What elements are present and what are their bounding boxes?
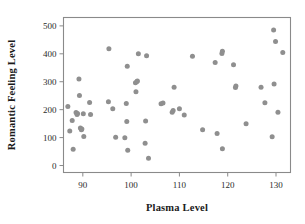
data-point [125,148,130,153]
plot-canvas: 0100200300400500 90100110120130 Plasma L… [0,0,305,224]
data-point [190,54,195,59]
y-tick-label: 300 [43,77,57,87]
data-point [81,111,86,116]
data-point [71,147,76,152]
data-point [124,101,129,106]
data-point [220,146,225,151]
y-axis-title: Romantic Feeling Level [6,40,17,151]
x-tick-label: 100 [124,180,138,190]
data-point [106,99,111,104]
data-point [177,106,182,111]
data-point [182,112,187,117]
data-point [81,134,86,139]
data-point [270,134,275,139]
data-point [231,62,236,67]
data-point [70,118,75,123]
data-point [144,53,149,58]
data-point [143,119,148,124]
data-point [146,156,151,161]
data-point [213,60,218,65]
data-point [122,135,127,140]
data-point [272,81,277,86]
data-point [143,141,148,146]
data-point [75,111,80,116]
data-point [67,128,72,133]
data-point [271,28,276,33]
data-point [125,64,130,69]
data-point [259,85,264,90]
data-point [262,100,267,105]
data-point [172,85,177,90]
data-point [220,49,225,54]
y-tick-label: 100 [43,133,57,143]
data-point [88,112,93,117]
y-tick-label: 0 [52,161,57,171]
y-tick-label: 200 [43,105,57,115]
data-point [135,78,140,83]
data-point [244,121,249,126]
x-tick-label: 130 [269,180,283,190]
y-tick-label: 500 [43,21,57,31]
data-point [273,39,278,44]
data-point [136,51,141,56]
data-point [76,76,81,81]
data-point [65,104,70,109]
x-tick-label: 120 [221,180,235,190]
data-point [113,135,118,140]
data-point [79,126,84,131]
x-tick-label: 90 [78,180,88,190]
data-point [87,100,92,105]
data-point [171,108,176,113]
data-point [200,127,205,132]
data-point [215,131,220,136]
data-point [106,46,111,51]
data-point [275,110,280,115]
data-point [280,50,285,55]
data-point [233,83,238,88]
data-point [133,89,138,94]
y-tick-label: 400 [43,49,57,59]
scatter-plot-figure: 0100200300400500 90100110120130 Plasma L… [0,0,305,224]
data-point [77,93,82,98]
data-point [110,106,115,111]
data-point [160,100,165,105]
data-point [124,119,129,124]
x-tick-label: 110 [173,180,187,190]
x-axis-title: Plasma Level [146,202,208,213]
